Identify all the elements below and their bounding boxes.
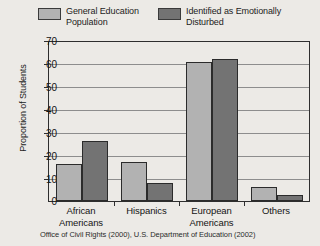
y-tick-mark-10 — [44, 179, 48, 180]
x-label-others: Others — [244, 205, 308, 217]
y-tick-mark-20 — [44, 156, 48, 157]
bar-others-emotionally-disturbed[interactable] — [277, 195, 303, 201]
y-tick-mark-50 — [44, 87, 48, 88]
bar-group-hispanics — [114, 42, 179, 201]
bar-others-general-education[interactable] — [251, 187, 277, 201]
x-label-european-americans: European Americans — [179, 205, 244, 228]
bar-group-african-americans — [49, 42, 114, 201]
legend-label-emotionally-disturbed: Identified as Emotionally Disturbed — [186, 6, 281, 27]
bar-series-container — [49, 42, 309, 201]
legend-swatch-icon-general-education — [38, 8, 61, 20]
y-tick-mark-40 — [44, 110, 48, 111]
bar-group-european-americans — [179, 42, 244, 201]
bar-hispanics-general-education[interactable] — [121, 162, 147, 201]
x-label-african-americans: African Americans — [48, 205, 114, 228]
legend-entry-general-education: General Education Population — [38, 6, 158, 27]
y-tick-mark-70 — [44, 41, 48, 42]
bar-european-americans-general-education[interactable] — [186, 62, 212, 201]
bar-african-americans-emotionally-disturbed[interactable] — [82, 141, 108, 201]
x-label-hispanics: Hispanics — [114, 205, 179, 217]
bar-group-others — [244, 42, 309, 201]
legend-entry-emotionally-disturbed: Identified as Emotionally Disturbed — [158, 6, 314, 27]
legend-swatch-icon-emotionally-disturbed — [158, 8, 181, 20]
bar-hispanics-emotionally-disturbed[interactable] — [147, 183, 173, 201]
legend-label-general-education: General Education Population — [66, 6, 139, 27]
bar-chart-figure: General Education Population Identified … — [0, 0, 320, 246]
y-axis-title: Proportion of Students — [18, 33, 28, 183]
y-tick-mark-60 — [44, 64, 48, 65]
bar-european-americans-emotionally-disturbed[interactable] — [212, 59, 238, 201]
bar-african-americans-general-education[interactable] — [56, 164, 82, 201]
source-note: Office of Civil Rights (2000), U.S. Depa… — [40, 230, 300, 239]
y-tick-mark-30 — [44, 133, 48, 134]
chart-legend: General Education Population Identified … — [38, 6, 316, 36]
x-axis-labels: African Americans Hispanics European Ame… — [48, 205, 310, 231]
